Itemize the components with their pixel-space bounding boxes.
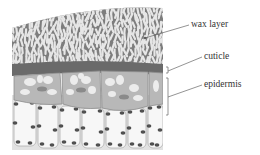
label-epidermis: epidermis xyxy=(204,80,241,90)
label-wax-layer: wax layer xyxy=(191,20,228,30)
label-cuticle: cuticle xyxy=(204,52,229,62)
leaf-cross-section-diagram: wax layer cuticle epidermis xyxy=(0,0,260,155)
